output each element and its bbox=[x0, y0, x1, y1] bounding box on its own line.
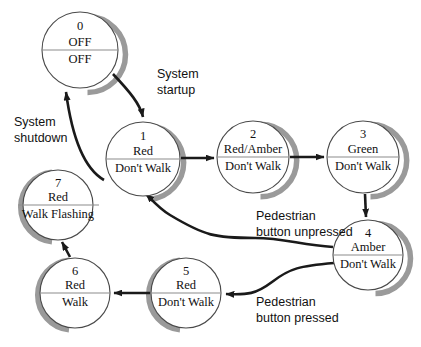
state-node-1[interactable]: 1 Red Don't Walk bbox=[106, 122, 180, 196]
state-7-bottom-label: Walk Flashing bbox=[22, 207, 95, 221]
state-3-top-label: Green bbox=[348, 142, 379, 156]
transition-4-1-label-line1: Pedestrian bbox=[256, 209, 316, 223]
transition-shutdown-label-line1: System bbox=[14, 115, 56, 129]
state-0-bottom-label: OFF bbox=[69, 52, 92, 66]
transition-4-5-label-line1: Pedestrian bbox=[256, 295, 316, 309]
transition-shutdown-label-line2: shutdown bbox=[14, 131, 68, 145]
state-6-number: 6 bbox=[72, 264, 78, 278]
state-0-number: 0 bbox=[77, 19, 83, 33]
state-1-top-label: Red bbox=[133, 144, 154, 158]
state-1-bottom-label: Don't Walk bbox=[115, 161, 172, 175]
state-4-number: 4 bbox=[365, 226, 372, 240]
state-3-bottom-label: Don't Walk bbox=[335, 159, 392, 173]
state-5-number: 5 bbox=[183, 264, 189, 278]
state-node-6[interactable]: 6 Red Walk bbox=[40, 258, 110, 328]
state-node-5[interactable]: 5 Red Don't Walk bbox=[151, 258, 221, 328]
state-4-bottom-label: Don't Walk bbox=[340, 257, 397, 271]
state-6-top-label: Red bbox=[65, 278, 86, 292]
state-2-top-label: Red/Amber bbox=[224, 142, 283, 156]
state-7-top-label: Red bbox=[48, 190, 69, 204]
state-7-number: 7 bbox=[55, 176, 61, 190]
state-5-top-label: Red bbox=[176, 278, 197, 292]
state-diagram-canvas: 0 OFF OFF 1 Red Don't Walk 2 Red/Amber D… bbox=[0, 0, 421, 347]
transition-4-1-label-line2: button unpressed bbox=[256, 225, 353, 239]
transition-startup-label-line2: startup bbox=[157, 83, 195, 97]
state-3-number: 3 bbox=[360, 127, 366, 141]
transition-startup-arrow[interactable] bbox=[113, 74, 143, 117]
state-1-number: 1 bbox=[140, 129, 146, 143]
state-5-bottom-label: Don't Walk bbox=[158, 295, 215, 309]
transition-6-7-arrow[interactable] bbox=[62, 242, 70, 257]
state-node-3[interactable]: 3 Green Don't Walk bbox=[327, 121, 399, 193]
state-2-number: 2 bbox=[250, 127, 256, 141]
transition-4-5-arrow[interactable] bbox=[226, 263, 334, 294]
state-node-0[interactable]: 0 OFF OFF bbox=[42, 12, 118, 88]
state-0-top-label: OFF bbox=[69, 35, 92, 49]
state-6-bottom-label: Walk bbox=[62, 295, 89, 309]
state-nodes: 0 OFF OFF 1 Red Don't Walk 2 Red/Amber D… bbox=[18, 12, 403, 328]
transition-3-4-arrow[interactable] bbox=[365, 194, 366, 217]
state-4-top-label: Amber bbox=[351, 240, 387, 254]
transitions bbox=[62, 74, 366, 294]
transition-startup-label-line1: System bbox=[157, 67, 199, 81]
transition-4-5-label-line2: button pressed bbox=[256, 311, 339, 325]
state-node-2[interactable]: 2 Red/Amber Don't Walk bbox=[217, 121, 289, 193]
state-diagram: 0 OFF OFF 1 Red Don't Walk 2 Red/Amber D… bbox=[0, 0, 421, 347]
transition-shutdown-arrow[interactable] bbox=[66, 92, 104, 180]
state-2-bottom-label: Don't Walk bbox=[225, 159, 282, 173]
